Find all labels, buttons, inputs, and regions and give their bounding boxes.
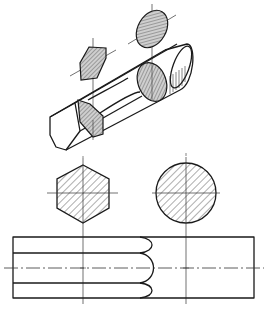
bar-body: [50, 44, 196, 150]
isometric-view: [50, 4, 196, 158]
front-elevation-view: [4, 237, 264, 298]
technical-drawing: [0, 0, 271, 318]
hex-section-view: [47, 158, 118, 304]
round-section-view: [152, 157, 220, 304]
removed-round-section: [128, 4, 176, 60]
